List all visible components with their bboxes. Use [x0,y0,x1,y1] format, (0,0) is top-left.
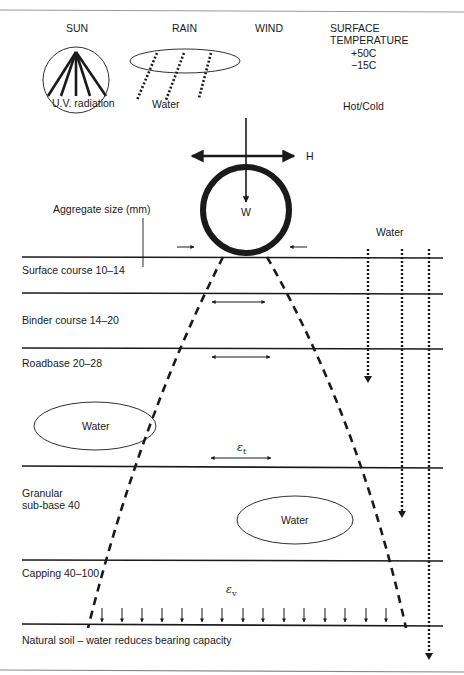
layer-capping: Capping 40–100 [22,567,99,579]
water-pocket-label-1: Water [82,420,110,432]
layer-subbase: sub-base 40 [22,499,80,511]
load-spread-cone [88,257,406,628]
vertical-strain-label: εv [226,584,236,598]
temperature-low: −15C [351,59,376,71]
layer-surface-course: Surface course 10–14 [22,264,125,276]
layer-binder-course: Binder course 14–20 [22,314,119,326]
layer-roadbase: Roadbase 20–28 [22,357,102,369]
aggregate-size-label: Aggregate size (mm) [53,203,150,215]
tensile-strain-label: εt [237,442,246,456]
vertical-strain-arrows [102,608,386,622]
bottom-border [0,670,464,672]
water-percolation [368,249,429,654]
horizontal-force-label: H [306,150,314,162]
sun-title: SUN [62,22,92,34]
temperature-high: +50C [351,47,376,59]
water-label-right: Water [376,226,404,238]
temperature-title-1: SURFACE [330,22,380,34]
temperature-caption: Hot/Cold [343,100,384,112]
water-arrowheads [364,376,433,660]
rain-icon [130,49,240,100]
rain-caption: Water [152,98,180,110]
wind-title: WIND [255,22,283,34]
temperature-title-2: TEMPERATURE [330,34,409,46]
water-pocket-label-2: Water [281,514,309,526]
sun-caption: U.V. radiation [52,97,115,109]
rain-title: RAIN [172,22,197,34]
layer-natural-soil: Natural soil – water reduces bearing cap… [22,634,232,646]
vertical-load-label: W [241,206,251,218]
top-border [0,10,464,12]
layer-granular: Granular [22,487,63,499]
